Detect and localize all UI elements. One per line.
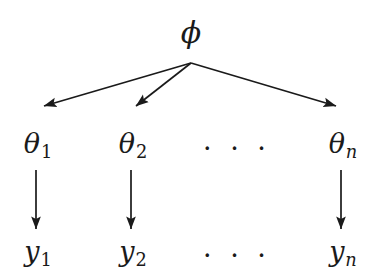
node-y-n: yn [329,238,357,269]
node-theta-1-symbol: θ [24,128,40,159]
ellipsis-theta-row: · · · [203,135,271,162]
edge-phi-to-theta-2 [136,63,191,106]
node-y-n-symbol: y [329,236,344,267]
node-theta-1: θ1 [24,130,53,161]
node-theta-1-subscript: 1 [41,141,52,162]
node-theta-2-subscript: 2 [136,141,147,162]
node-y-2: y2 [119,238,147,269]
node-theta-2: θ2 [119,130,148,161]
node-y-1: y1 [24,238,52,269]
node-theta-n: θn [329,130,358,161]
node-y-1-subscript: 1 [40,249,51,270]
edge-phi-to-theta-1 [44,63,191,106]
edge-phi-to-theta-n [191,63,336,106]
node-y-n-subscript: n [345,249,356,270]
node-y-1-symbol: y [24,236,39,267]
node-y-2-subscript: 2 [135,249,146,270]
node-theta-2-symbol: θ [119,128,135,159]
ellipsis-y-row: · · · [203,242,271,269]
hierarchical-model-diagram: ϕ θ1 θ2 · · · θn y1 y2 · · · yn [0,0,381,279]
node-phi: ϕ [181,18,202,48]
node-theta-n-subscript: n [346,141,357,162]
node-phi-symbol: ϕ [181,15,202,50]
node-y-2-symbol: y [119,236,134,267]
node-theta-n-symbol: θ [329,128,345,159]
